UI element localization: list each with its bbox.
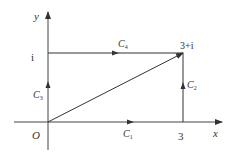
arrow-icon bbox=[112, 51, 119, 56]
y-axis-label: y bbox=[33, 10, 39, 22]
corner-point-label: 3+i bbox=[180, 40, 194, 51]
origin-label: O bbox=[32, 129, 40, 141]
path-c2 bbox=[181, 53, 186, 122]
arrow-icon bbox=[127, 120, 134, 125]
arrow-icon bbox=[46, 81, 51, 88]
y-tick-label: i bbox=[31, 51, 34, 63]
c2-label: C2 bbox=[187, 79, 197, 91]
contour-diagram: y x O i 3 3+i C4 C2 C3 C1 bbox=[0, 0, 232, 155]
x-axis-label: x bbox=[212, 127, 218, 139]
x-tick-label: 3 bbox=[178, 130, 184, 142]
path-c1 bbox=[127, 120, 134, 125]
c1-label: C1 bbox=[123, 128, 133, 140]
c3-label: C3 bbox=[33, 89, 43, 101]
path-c4 bbox=[48, 51, 183, 56]
arrow-icon bbox=[181, 82, 186, 89]
diagonal-path bbox=[48, 53, 183, 122]
path-c3 bbox=[46, 81, 51, 88]
c4-label: C4 bbox=[118, 38, 128, 50]
